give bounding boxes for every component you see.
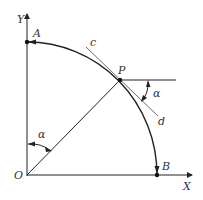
arrow-a (28, 40, 36, 45)
label-alpha-p: α (153, 87, 161, 100)
label-x: X (182, 180, 192, 193)
label-alpha-o: α (38, 128, 46, 141)
arc-diagram: Y X O A B P c d α α (0, 0, 203, 200)
angle-arrow-p-bottom (141, 95, 147, 102)
point-a (25, 40, 29, 44)
label-d: d (158, 115, 165, 128)
point-b (155, 173, 159, 177)
point-p (118, 78, 122, 82)
label-o: O (14, 169, 23, 182)
label-b: B (161, 160, 170, 173)
angle-arrow-o (28, 142, 35, 147)
label-a: A (32, 27, 41, 40)
tangent-cd (86, 47, 158, 116)
label-p: P (117, 64, 126, 77)
angle-arrow-p-top (146, 80, 151, 87)
angle-arrow-o2 (45, 147, 52, 152)
label-c: c (90, 36, 96, 49)
label-y: Y (17, 13, 26, 26)
